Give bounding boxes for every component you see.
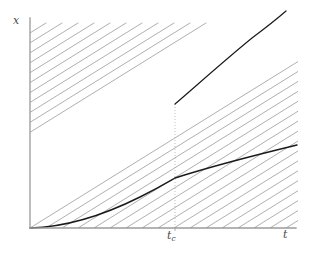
y-axis-label: x — [13, 15, 19, 26]
characteristic-line — [174, 23, 309, 228]
characteristic-line — [30, 23, 309, 228]
characteristic-line — [222, 23, 309, 228]
characteristic-line-family — [0, 23, 309, 228]
characteristic-line — [0, 23, 30, 228]
characteristic-line — [206, 23, 309, 228]
critical-time-label-subscript: c — [171, 234, 175, 243]
characteristic-line — [0, 23, 62, 228]
characteristic-line — [0, 23, 78, 228]
characteristic-line — [0, 23, 174, 228]
characteristic-line — [0, 23, 110, 228]
characteristic-line — [46, 23, 309, 228]
characteristic-line — [142, 23, 309, 228]
x-axis-label: t — [283, 229, 287, 240]
characteristic-line — [254, 23, 309, 228]
characteristic-line — [238, 23, 309, 228]
envelope-upper-branch — [175, 11, 286, 104]
characteristic-line — [94, 23, 309, 228]
characteristic-line — [126, 23, 309, 228]
characteristic-line — [0, 23, 46, 228]
characteristic-line — [286, 23, 309, 228]
critical-time-label: tc — [167, 230, 176, 243]
characteristic-line — [270, 23, 309, 228]
characteristics-diagram: x t tc — [0, 0, 309, 254]
characteristic-line — [0, 23, 142, 228]
characteristic-line — [0, 23, 126, 228]
plot-canvas — [0, 0, 309, 254]
